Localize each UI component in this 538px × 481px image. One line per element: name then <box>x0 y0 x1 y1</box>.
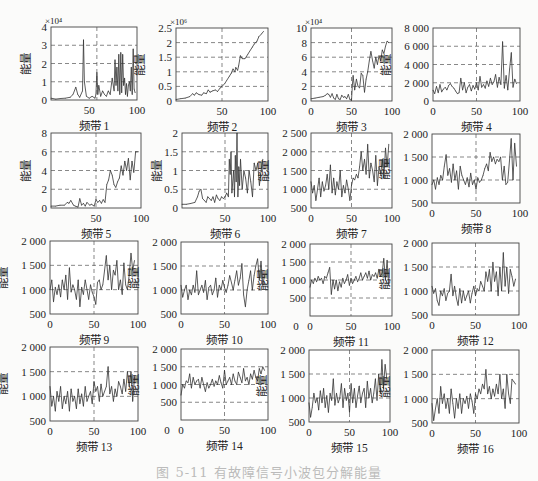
data-point <box>100 96 101 97</box>
data-point <box>94 381 95 382</box>
data-point <box>454 286 455 287</box>
data-point <box>501 398 502 399</box>
data-point <box>435 189 436 190</box>
data-point <box>311 181 312 182</box>
data-point <box>449 168 450 169</box>
data-point <box>221 196 222 197</box>
y-axis-label: 能量 <box>256 269 269 291</box>
data-point <box>108 179 109 180</box>
y-axis-label: 能量 <box>378 268 391 290</box>
data-point <box>208 90 209 91</box>
y-tick-label: 1 500 <box>281 256 306 268</box>
data-point <box>472 401 473 402</box>
subplot-13: 0501005001 0001 5002 000频带 13能量 <box>0 341 147 453</box>
data-point <box>110 94 111 95</box>
data-point <box>347 274 348 275</box>
data-point <box>104 94 105 95</box>
data-point <box>495 164 496 165</box>
data-point <box>505 286 506 287</box>
data-point <box>208 388 209 389</box>
data-point <box>212 379 213 380</box>
x-tick-label: 50 <box>217 105 229 117</box>
data-point <box>447 293 448 294</box>
y-tick-label: 500 <box>290 292 307 304</box>
data-point <box>452 295 453 296</box>
data-point <box>482 286 483 287</box>
data-point <box>254 275 255 276</box>
data-point <box>74 396 75 397</box>
data-point <box>462 90 463 91</box>
data-point <box>198 379 199 380</box>
data-point <box>463 291 464 292</box>
data-point <box>181 285 182 286</box>
data-point <box>315 98 316 99</box>
data-point <box>131 371 132 372</box>
data-point <box>60 297 61 298</box>
data-point <box>341 95 342 96</box>
data-point <box>247 193 248 194</box>
data-point <box>83 406 84 407</box>
data-point <box>337 290 338 291</box>
data-point <box>233 170 234 171</box>
x-tick-label: 50 <box>220 212 232 224</box>
data-point <box>388 144 389 145</box>
data-point <box>484 168 485 169</box>
data-point <box>230 174 231 175</box>
y-tick-label: 0 <box>164 424 170 436</box>
data-point <box>439 184 440 185</box>
data-point <box>205 391 206 392</box>
y-tick-label: 1 000 <box>152 284 177 296</box>
x-tick-label: 0 <box>308 105 314 117</box>
data-point <box>130 179 131 180</box>
data-point <box>480 76 481 77</box>
data-point <box>333 98 334 99</box>
data-point <box>493 262 494 263</box>
data-point <box>320 196 321 197</box>
data-point <box>432 184 433 185</box>
data-point <box>259 368 260 369</box>
y-tick-label: 4 <box>302 66 308 78</box>
data-point <box>486 271 487 272</box>
data-point <box>372 60 373 61</box>
data-point <box>221 290 222 291</box>
data-point <box>377 64 378 65</box>
data-point <box>72 401 73 402</box>
data-point <box>188 299 189 300</box>
data-point <box>500 84 501 85</box>
data-point <box>471 91 472 92</box>
data-point <box>446 408 447 409</box>
data-point <box>502 180 503 181</box>
data-point <box>101 384 102 385</box>
y-tick-label: 1 500 <box>21 366 46 378</box>
data-point <box>250 270 251 271</box>
data-point <box>499 267 500 268</box>
subplot-14: 0501005001 0001 5002 0000频带 14能量 <box>127 343 277 452</box>
data-point <box>463 398 464 399</box>
data-point <box>453 164 454 165</box>
data-point <box>109 265 110 266</box>
data-point <box>78 280 79 281</box>
figure-caption: 图 5-11 有故障信号小波包分解能量 <box>0 462 538 481</box>
y-tick-label: 4 <box>42 165 48 177</box>
data-point <box>364 276 365 277</box>
data-point <box>104 391 105 392</box>
x-tick-label: 0 <box>429 319 435 331</box>
data-point <box>442 295 443 296</box>
data-point <box>131 67 132 68</box>
y-tick-label: 1 500 <box>152 361 177 373</box>
data-point <box>182 204 183 205</box>
data-point <box>510 403 511 404</box>
data-point <box>313 283 314 284</box>
x-tick-label: 100 <box>260 318 277 330</box>
data-point <box>344 283 345 284</box>
data-point <box>333 378 334 379</box>
data-point <box>454 180 455 181</box>
data-point <box>185 98 186 99</box>
data-point <box>218 198 219 199</box>
data-point <box>387 41 388 42</box>
data-point <box>245 178 246 179</box>
data-point <box>189 290 190 291</box>
data-point <box>433 420 434 421</box>
data-point <box>483 175 484 176</box>
data-point <box>454 418 455 419</box>
